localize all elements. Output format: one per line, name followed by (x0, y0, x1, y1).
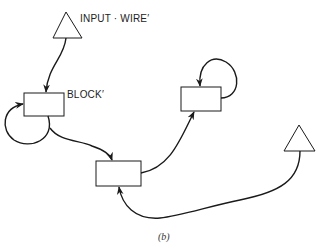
edge-block1-to-block2 (50, 128, 112, 160)
input-wire-triangle (53, 12, 82, 38)
block-label: BLOCK′ (67, 89, 104, 100)
input-wire-label: INPUT · WIRE′ (80, 13, 149, 24)
triangle-2 (284, 125, 315, 151)
block-2 (96, 161, 141, 186)
edge-block2-to-block3 (141, 112, 194, 173)
edge-input-to-block1 (46, 38, 66, 92)
figure-caption: (b) (158, 231, 170, 242)
diagram-canvas (0, 0, 319, 248)
edge-triangle2-to-block2 (119, 151, 300, 218)
block-3 (181, 87, 221, 111)
block-1 (24, 93, 64, 116)
